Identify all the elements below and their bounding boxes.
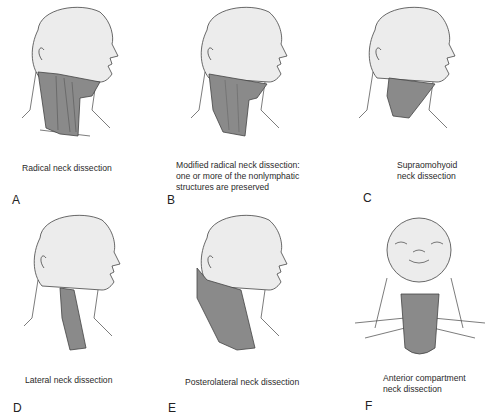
lateral-neck-dissection-illustration [0, 208, 167, 368]
caption-d: Lateral neck dissection [25, 375, 112, 386]
radical-neck-dissection-illustration [0, 0, 167, 150]
caption-b: Modified radical neck dissection: one or… [176, 160, 300, 193]
panel-letter-f: F [365, 399, 372, 413]
panel-letter-a: A [12, 193, 20, 207]
panel-letter-e: E [168, 401, 176, 415]
panel-a: Radical neck dissection A [0, 0, 167, 208]
panel-b: Modified radical neck dissection: one or… [167, 0, 334, 208]
panel-d: Lateral neck dissection D [0, 208, 167, 416]
posterolateral-neck-dissection-illustration [167, 208, 334, 368]
panel-letter-b: B [167, 193, 175, 207]
panel-letter-d: D [13, 401, 22, 415]
caption-f: Anterior compartment neck dissection [383, 373, 466, 395]
panel-letter-c: C [363, 191, 372, 205]
panel-e: Posterolateral neck dissection E [167, 208, 334, 416]
caption-a: Radical neck dissection [22, 163, 112, 174]
caption-c: Supraomohyoid neck dissection [397, 160, 457, 182]
panel-f: Anterior compartment neck dissection F [335, 208, 502, 416]
caption-e: Posterolateral neck dissection [185, 377, 299, 388]
anterior-compartment-neck-dissection-illustration [335, 208, 502, 368]
panel-c: Supraomohyoid neck dissection C [335, 0, 502, 208]
modified-radical-neck-dissection-illustration [167, 0, 334, 150]
supraomohyoid-neck-dissection-illustration [335, 0, 502, 150]
